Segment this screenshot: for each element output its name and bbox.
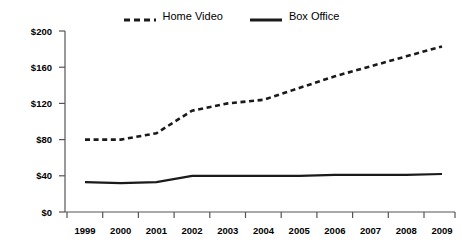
x-tick-label: 2004 (244, 226, 284, 236)
y-tick-label: $120 (6, 99, 52, 109)
x-tick-label: 2001 (136, 226, 176, 236)
y-tick-label: $0 (6, 208, 52, 218)
x-tick-label: 2006 (315, 226, 355, 236)
x-tick-label: 2009 (422, 226, 462, 236)
y-tick-label: $40 (6, 171, 52, 181)
plot-area (0, 0, 462, 249)
x-tick-label: 2000 (101, 226, 141, 236)
x-tick-label: 2008 (386, 226, 426, 236)
y-tick-label: $80 (6, 135, 52, 145)
x-tick-label: 2007 (351, 226, 391, 236)
line-chart: Home Video Box Office (0, 0, 462, 249)
y-tick-label: $160 (6, 63, 52, 73)
y-axis-ticks (59, 31, 65, 212)
x-tick-label: 2002 (172, 226, 212, 236)
series-line-box-office (85, 174, 442, 183)
x-axis-ticks (67, 212, 455, 218)
x-tick-label: 2005 (279, 226, 319, 236)
x-tick-label: 1999 (65, 226, 105, 236)
y-tick-label: $200 (6, 27, 52, 37)
x-tick-label: 2003 (208, 226, 248, 236)
series-line-home-video (85, 46, 442, 139)
